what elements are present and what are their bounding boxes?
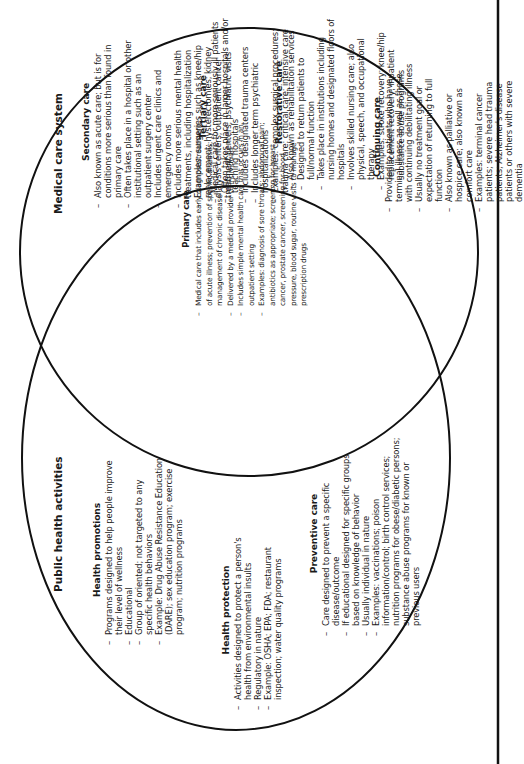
health-protection-heading: Health protection [220,510,231,710]
list-item: Includes urgent care clinics and emergen… [153,36,173,208]
list-item: Includes simple mental health care that … [236,122,257,316]
list-item: Activities designed to protect a person'… [233,510,253,710]
primary-care-heading: Primary care [181,122,192,316]
list-item: Provided to patients who have terminal i… [384,62,414,212]
list-item: Regulatory in nature [253,510,263,710]
list-item: Usually individual in nature [361,431,371,636]
list-item: Usually no treatment goal or expectation… [414,62,444,212]
list-item: Often takes place in a hospital or other… [123,36,153,208]
list-item: Care designed to prevent a specific dise… [321,431,341,636]
primary-care-section: Primary care Medical care that includes … [181,122,310,316]
list-item: Also known as acute care; but is for con… [93,36,123,208]
list-item: Example: Drug Abuse Resistance Education… [154,455,184,645]
list-item: Also known as palliative or hospice care… [444,62,474,212]
list-item: Examples: vaccinations; poison informati… [371,431,421,636]
preventive-care-section: Preventive care Care designed to prevent… [308,431,421,636]
continuing-care-list: Provided to patients who have terminal i… [384,62,524,212]
list-item: Medical care that includes early diagnos… [194,122,226,316]
list-item: Examples: diagnosis of sore throats; abd… [257,122,310,316]
secondary-care-heading: Secondary care [80,36,91,208]
health-promotions-section: Health promotions Programs designed to h… [91,455,184,645]
health-promotions-list: Programs designed to help people improve… [104,455,184,645]
continuing-care-heading: Continuing care [371,62,382,212]
list-item: Programs designed to help people improve… [104,455,124,645]
primary-care-list: Medical care that includes early diagnos… [194,122,310,316]
list-item: Takes place in institutions including nu… [316,15,346,190]
medical-care-system-title: Medical care system [52,104,64,214]
public-health-activities-title: Public health activities [52,462,64,592]
list-item: Examples: terminal cancer patients; seve… [474,62,524,212]
health-protection-list: Activities designed to protect a person'… [233,510,283,710]
list-item: If educational designed for specific gro… [341,431,361,636]
list-item: Group of oriented; not targeted to any s… [134,455,154,645]
list-item: Example: OSHA; EPA; FDA; restaurant insp… [263,510,283,710]
health-protection-section: Health protection Activities designed to… [220,510,283,710]
continuing-care-section: Continuing care Provided to patients who… [371,62,524,212]
list-item: Educational [124,455,134,645]
list-item: Delivered by a medical provider to indiv… [226,122,237,316]
preventive-care-list: Care designed to prevent a specific dise… [321,431,421,636]
preventive-care-heading: Preventive care [308,431,319,636]
health-promotions-heading: Health promotions [91,455,102,645]
